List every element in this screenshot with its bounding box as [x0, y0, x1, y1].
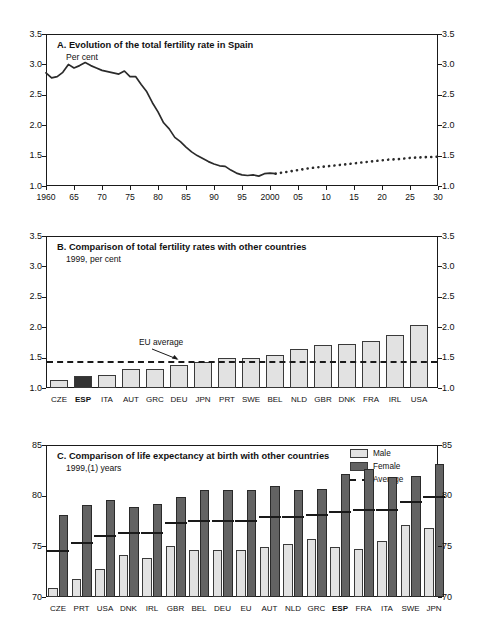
panel-b-ytick-left-1: 1.5 — [18, 353, 42, 362]
panel-a-ytick-left-5: 3.5 — [18, 30, 42, 39]
panel-b-ytick-right-2: 2.0 — [442, 323, 466, 332]
bar-male-fra — [354, 549, 364, 597]
panel-a-xtickmark — [242, 186, 243, 190]
panel-c-ytick-right-0: 70 — [442, 593, 466, 602]
panel-b-tickmark — [438, 358, 442, 359]
panel-a-tickmark — [438, 156, 442, 157]
panel-a-tickmark — [42, 125, 46, 126]
male-swatch-icon — [350, 449, 368, 458]
panel-c-ytick-left-0: 70 — [18, 593, 42, 602]
bar-male-jpn — [424, 528, 434, 597]
bar-female-usa — [106, 500, 116, 597]
avg-mark-nld — [282, 516, 304, 518]
panel-a-ytick-right-2: 2.0 — [442, 121, 466, 130]
bar-male-cze — [48, 588, 58, 597]
bar-male-gbr — [166, 546, 176, 597]
panel-b-ytick-left-0: 1.0 — [18, 384, 42, 393]
avg-mark-prt — [71, 542, 93, 544]
panel-b-tickmark — [42, 388, 46, 389]
panel-b-ytick-right-0: 1.0 — [442, 384, 466, 393]
avg-mark-fra — [353, 509, 375, 511]
panel-b-tickmark — [438, 327, 442, 328]
bar-male-prt — [72, 579, 82, 597]
panel-a-xtickmark — [438, 186, 439, 190]
panel-a-xtickmark — [410, 186, 411, 190]
avg-mark-gbr — [165, 522, 187, 524]
bar-female-ita — [388, 477, 398, 597]
panel-a-tickmark — [438, 64, 442, 65]
bar-female-cze — [59, 515, 69, 597]
panel-a-tickmark — [438, 125, 442, 126]
panel-a-xtickmark — [298, 186, 299, 190]
eu-average-annotation-arrow — [0, 228, 484, 418]
avg-mark-bel — [188, 520, 210, 522]
panel-a-ytick-left-3: 2.5 — [18, 90, 42, 99]
panel-a-ytick-right-1: 1.5 — [442, 151, 466, 160]
panel-a-tickmark — [42, 64, 46, 65]
avg-mark-ita — [376, 509, 398, 511]
panel-a-ytick-left-4: 3.0 — [18, 60, 42, 69]
panel-a-xtickmark — [382, 186, 383, 190]
panel-a-tickmark — [438, 95, 442, 96]
panel-c-tickmark — [42, 445, 46, 446]
panel-a-xtickmark — [46, 186, 47, 190]
panel-b-tickmark — [42, 327, 46, 328]
panel-c-tickmark — [438, 445, 442, 446]
panel-b-tickmark — [438, 388, 442, 389]
panel-a-tickmark — [42, 156, 46, 157]
panel-a-tickmark — [438, 34, 442, 35]
panel-c-ytick-left-2: 80 — [18, 491, 42, 500]
panel-b-tickmark — [42, 236, 46, 237]
panel-a-ytick-left-1: 1.5 — [18, 151, 42, 160]
panel-b-tickmark — [42, 266, 46, 267]
panel-c-tickmark — [438, 496, 442, 497]
bar-male-bel — [189, 550, 199, 597]
bar-male-nld — [283, 544, 293, 597]
bar-male-eu — [236, 550, 246, 597]
bar-female-irl — [153, 504, 163, 597]
bar-female-jpn — [435, 464, 445, 597]
bar-female-gbr — [176, 497, 186, 597]
panel-a: A. Evolution of the total fertility rate… — [0, 0, 484, 215]
panel-c-catlabel-jpn: JPN — [419, 604, 449, 613]
panel-a-xtickmark — [214, 186, 215, 190]
panel-a-ytick-left-2: 2.0 — [18, 121, 42, 130]
panel-c-ytick-left-3: 85 — [18, 441, 42, 450]
panel-b-ytick-right-1: 1.5 — [442, 353, 466, 362]
panel-c-ytick-right-3: 85 — [442, 441, 466, 450]
bar-female-nld — [294, 490, 304, 597]
avg-mark-deu — [212, 520, 234, 522]
panel-a-xtickmark — [270, 186, 271, 190]
panel-b-ytick-left-3: 2.5 — [18, 292, 42, 301]
legend-row-female: Female — [350, 461, 430, 472]
panel-b-ytick-right-3: 2.5 — [442, 292, 466, 301]
panel-a-xtickmark — [326, 186, 327, 190]
bar-male-aut — [260, 547, 270, 597]
panel-a-xtick-14: 30 — [418, 193, 458, 202]
avg-mark-aut — [259, 516, 281, 518]
bar-male-usa — [95, 569, 105, 598]
panel-b-catlabel-usa: USA — [404, 395, 434, 404]
bar-male-esp — [330, 547, 340, 597]
panel-a-xtickmark — [354, 186, 355, 190]
panel-b-ytick-left-5: 3.5 — [18, 232, 42, 241]
panel-a-xtickmark — [186, 186, 187, 190]
panel-a-line-series — [0, 0, 484, 215]
panel-a-xtickmark — [102, 186, 103, 190]
panel-a-ytick-right-4: 3.0 — [442, 60, 466, 69]
panel-a-ytick-right-0: 1.0 — [442, 182, 466, 191]
bar-female-deu — [223, 490, 233, 597]
panel-a-tickmark — [42, 34, 46, 35]
panel-c-tickmark — [438, 597, 442, 598]
panel-a-xtickmark — [158, 186, 159, 190]
panel-b: B. Comparison of total fertility rates w… — [0, 228, 484, 418]
panel-c-tickmark — [42, 496, 46, 497]
bar-female-eu — [247, 490, 257, 597]
panel-c-ytick-left-1: 75 — [18, 542, 42, 551]
panel-c-tickmark — [42, 597, 46, 598]
avg-mark-eu — [235, 520, 257, 522]
figure-root: A. Evolution of the total fertility rate… — [0, 0, 484, 622]
avg-mark-esp — [329, 511, 351, 513]
panel-c-tickmark — [42, 546, 46, 547]
panel-a-ytick-right-5: 3.5 — [442, 30, 466, 39]
